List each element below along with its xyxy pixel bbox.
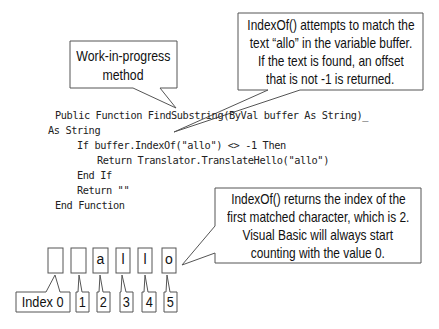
callout-line: that is not -1 is returned.	[266, 70, 394, 88]
code-line: End If	[77, 168, 112, 184]
char-box-1	[71, 248, 86, 273]
index-label: 1	[76, 292, 89, 312]
char-value: a	[93, 251, 108, 267]
index-label: 3	[120, 292, 133, 312]
code-line: Public Function FindSubstring(ByVal buff…	[55, 108, 368, 124]
callout-indexof-returns: IndexOf() returns the index of the first…	[215, 188, 421, 263]
code-line: If buffer.IndexOf("allo") <> -1 Then	[77, 138, 286, 154]
code-line: Return ""	[77, 183, 129, 199]
char-value: l	[138, 251, 152, 267]
code-line: As String	[48, 123, 100, 139]
index-label: Index 0	[16, 292, 70, 312]
index-label: 5	[164, 292, 177, 312]
callout-indexof-match: IndexOf() attempts to match the text “al…	[238, 13, 423, 90]
callout-line: first matched character, which is 2.	[227, 208, 409, 226]
callout-line: If the text is found, an offset	[258, 52, 404, 70]
char-value: o	[162, 251, 176, 267]
char-value: l	[116, 251, 130, 267]
code-line: End Function	[55, 198, 125, 214]
callout-line: IndexOf() attempts to match the	[247, 16, 414, 34]
callout-work-in-progress: Work-in-progress method	[70, 41, 177, 88]
callout-line: method	[103, 65, 144, 84]
callout-line: IndexOf() returns the index of the	[231, 190, 405, 208]
index-label: 4	[142, 292, 156, 312]
index-label: 2	[97, 292, 110, 312]
callout-line: Visual Basic will always start	[243, 226, 393, 244]
char-box-0	[48, 248, 63, 273]
callout-line: counting with the value 0.	[251, 244, 385, 262]
code-line: Return Translator.TranslateHello("allo")	[97, 153, 329, 169]
callout-line: Work-in-progress	[76, 46, 170, 65]
callout-line: text “allo” in the variable buffer.	[249, 34, 411, 52]
